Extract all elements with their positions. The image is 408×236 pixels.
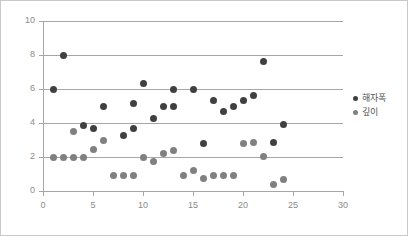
data-point (260, 153, 267, 160)
data-point (270, 181, 277, 188)
data-point (210, 172, 217, 179)
data-point (90, 125, 97, 132)
data-point (150, 115, 157, 122)
data-point (80, 154, 87, 161)
data-point (190, 167, 197, 174)
y-tick-label-0: 0 (5, 186, 35, 195)
data-point (280, 176, 287, 183)
data-point (130, 100, 137, 107)
data-point (230, 172, 237, 179)
data-point (100, 137, 107, 144)
legend-label: 깊이 (362, 107, 378, 117)
legend-item-0[interactable]: 해자폭 (353, 91, 407, 105)
data-point (170, 86, 177, 93)
x-tick-label-0: 0 (28, 201, 58, 210)
data-point (240, 97, 247, 104)
y-tick-label-10: 10 (5, 16, 35, 25)
chart-legend: 해자폭깊이 (353, 91, 407, 119)
data-point (80, 122, 87, 129)
legend-marker-icon (353, 110, 358, 115)
x-tick-label-15: 15 (178, 201, 208, 210)
x-tick-mark-30 (343, 191, 344, 196)
data-point (100, 103, 107, 110)
legend-marker-icon (353, 96, 358, 101)
y-tick-label-2: 2 (5, 152, 35, 161)
data-point (160, 150, 167, 157)
data-point (70, 154, 77, 161)
gridline-y-8 (43, 55, 343, 56)
data-point (200, 175, 207, 182)
data-point (190, 86, 197, 93)
data-point (60, 154, 67, 161)
data-point (110, 172, 117, 179)
data-point (270, 139, 277, 146)
data-point (90, 146, 97, 153)
data-point (140, 154, 147, 161)
y-tick-label-8: 8 (5, 50, 35, 59)
gridline-y-10 (43, 21, 343, 22)
legend-label: 해자폭 (362, 93, 386, 103)
data-point (70, 128, 77, 135)
data-point (260, 58, 267, 65)
data-point (130, 172, 137, 179)
x-tick-label-20: 20 (228, 201, 258, 210)
data-point (50, 154, 57, 161)
plot-area (43, 21, 343, 191)
data-point (240, 140, 247, 147)
data-point (210, 97, 217, 104)
data-point (280, 121, 287, 128)
data-point (150, 158, 157, 165)
data-point (250, 139, 257, 146)
data-point (130, 125, 137, 132)
data-point (160, 103, 167, 110)
x-tick-label-25: 25 (278, 201, 308, 210)
y-tick-label-6: 6 (5, 84, 35, 93)
data-point (250, 92, 257, 99)
gridline-y-4 (43, 123, 343, 124)
data-point (220, 172, 227, 179)
y-tick-label-4: 4 (5, 118, 35, 127)
x-tick-label-30: 30 (328, 201, 358, 210)
legend-item-1[interactable]: 깊이 (353, 105, 407, 119)
data-point (50, 86, 57, 93)
gridline-y-0 (43, 191, 343, 192)
data-point (170, 147, 177, 154)
x-tick-label-10: 10 (128, 201, 158, 210)
data-point (60, 52, 67, 59)
gridline-y-2 (43, 157, 343, 158)
data-point (120, 132, 127, 139)
data-point (180, 172, 187, 179)
scatter-chart: 0246810 051015202530 해자폭깊이 (0, 0, 408, 236)
data-point (230, 103, 237, 110)
data-point (120, 172, 127, 179)
data-point (220, 108, 227, 115)
x-tick-label-5: 5 (78, 201, 108, 210)
data-point (140, 80, 147, 87)
data-point (170, 103, 177, 110)
data-point (200, 140, 207, 147)
